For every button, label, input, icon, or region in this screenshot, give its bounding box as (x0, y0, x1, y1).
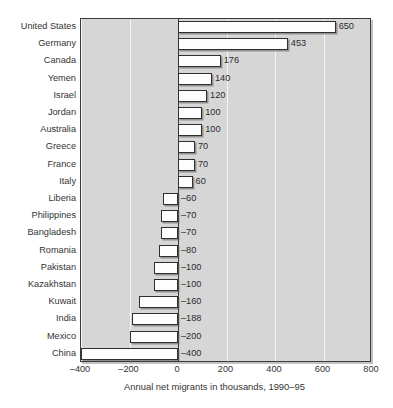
category-label: France (47, 156, 76, 173)
category-label: Philippines (32, 207, 76, 224)
bar-value-label: –188 (181, 310, 201, 327)
category-label: Greece (46, 138, 76, 155)
x-axis-title: Annual net migrants in thousands, 1990–9… (0, 381, 393, 392)
category-label: Romania (39, 242, 76, 259)
x-tick-label: 400 (266, 364, 281, 374)
bar-value-label: –70 (181, 224, 196, 241)
category-label: Italy (59, 173, 76, 190)
category-label: Yemen (48, 70, 76, 87)
x-tick-label: 800 (363, 364, 378, 374)
category-label: Australia (40, 121, 76, 138)
bar-value-label: –70 (181, 207, 196, 224)
x-axis-title-text: Annual net migrants in thousands, 1990–9… (88, 381, 305, 392)
bar-value-label: 100 (205, 104, 220, 121)
x-tick-label: 0 (174, 364, 179, 374)
bar-value-label: 140 (215, 70, 230, 87)
bar-value-label: –200 (181, 328, 201, 345)
x-tick-label: –400 (70, 364, 90, 374)
category-label: Liberia (48, 190, 76, 207)
category-label: Pakistan (41, 259, 76, 276)
category-label: Bangladesh (27, 224, 76, 241)
x-axis-ticks: –400–2000200400600800 (0, 364, 393, 380)
bar-value-label: –80 (181, 242, 196, 259)
category-label: Germany (38, 35, 76, 52)
bar-value-label: 60 (196, 173, 206, 190)
bar-value-label: 100 (205, 121, 220, 138)
category-label: Kuwait (48, 293, 76, 310)
bar-value-label: 650 (339, 18, 354, 35)
bar-value-label: –60 (181, 190, 196, 207)
category-label: Kazakhstan (28, 276, 76, 293)
bar-chart-figure: United StatesGermanyCanadaYemenIsraelJor… (0, 0, 393, 408)
bar-value-label: –100 (181, 259, 201, 276)
bar-value-label: –400 (181, 345, 201, 362)
bar-value-label: –160 (181, 293, 201, 310)
bar-value-label: 120 (210, 87, 225, 104)
category-axis: United StatesGermanyCanadaYemenIsraelJor… (0, 18, 76, 362)
bar-value-label: 176 (224, 52, 239, 69)
x-tick-label: 600 (315, 364, 330, 374)
category-label: Canada (44, 52, 76, 69)
category-label: Israel (54, 87, 76, 104)
category-label: China (52, 345, 76, 362)
category-label: United States (21, 18, 76, 35)
category-label: Mexico (47, 328, 76, 345)
bar-value-label: 70 (198, 156, 208, 173)
value-label-layer: 650453176140120100100707060–60–70–70–80–… (80, 18, 371, 362)
bar-value-label: 70 (198, 138, 208, 155)
bar-value-label: 453 (291, 35, 306, 52)
category-label: Jordan (48, 104, 76, 121)
x-tick-label: 200 (218, 364, 233, 374)
x-tick-label: –200 (118, 364, 138, 374)
bar-value-label: –100 (181, 276, 201, 293)
category-label: India (56, 310, 76, 327)
